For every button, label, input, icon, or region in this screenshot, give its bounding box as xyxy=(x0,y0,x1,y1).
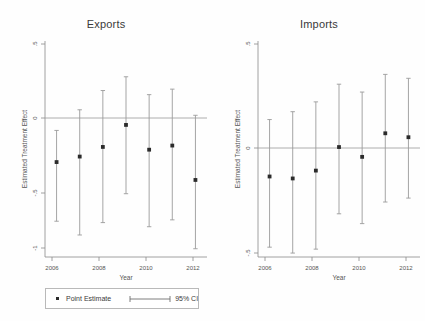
y-axis-title-imports: Estimated Treatment Effect xyxy=(234,110,241,188)
point-estimate-marker xyxy=(360,155,364,159)
x-ticks-imports: 2006 2008 2010 2012 xyxy=(258,257,413,271)
x-tick-label: 2008 xyxy=(92,265,106,271)
x-ticks-exports: 2006 2008 2010 2012 xyxy=(45,257,200,271)
plot-area-exports: .5 0 -.5 -1 Estimated Treatment Effect 2… xyxy=(0,0,212,321)
point-estimate-marker xyxy=(101,145,105,149)
x-axis-title-imports: Year xyxy=(332,274,346,281)
point-estimate-marker xyxy=(194,178,198,182)
point-estimate-marker xyxy=(55,160,59,164)
y-ticks-exports: .5 0 -.5 -1 xyxy=(32,41,45,251)
point-estimate-marker-icon xyxy=(53,297,62,300)
legend-label-ci: 95% CI xyxy=(175,295,198,302)
x-tick-label: 2010 xyxy=(352,265,366,271)
x-axis-title-exports: Year xyxy=(119,274,133,281)
x-tick-label: 2012 xyxy=(186,265,200,271)
point-estimate-marker xyxy=(170,144,174,148)
point-estimate-marker xyxy=(337,145,341,149)
point-estimate-marker xyxy=(124,123,128,127)
point-estimate-marker xyxy=(147,148,151,152)
point-estimate-marker xyxy=(78,155,82,159)
y-ticks-imports: .5 0 -.5 xyxy=(245,41,258,257)
x-tick-label: 2012 xyxy=(399,265,413,271)
point-estimate-marker xyxy=(383,131,387,135)
figure-canvas: Exports .5 0 -.5 -1 Es xyxy=(0,0,425,321)
legend-exports: Point Estimate 95% CI xyxy=(45,288,199,309)
exports-data-series xyxy=(54,77,197,249)
y-tick-label: 0 xyxy=(245,146,251,150)
panel-imports: Imports .5 0 -.5 Estimated Treatment Eff… xyxy=(213,0,425,321)
ci-bar-icon xyxy=(129,295,171,303)
point-estimate-marker xyxy=(268,175,272,179)
x-tick-label: 2008 xyxy=(305,265,319,271)
legend-item-ci: 95% CI xyxy=(111,295,198,303)
x-tick-label: 2006 xyxy=(45,265,59,271)
x-tick-label: 2010 xyxy=(139,265,153,271)
plot-area-imports: .5 0 -.5 Estimated Treatment Effect 2006… xyxy=(213,0,425,321)
x-tick-label: 2006 xyxy=(258,265,272,271)
y-tick-label: .5 xyxy=(245,41,251,47)
imports-svg: .5 0 -.5 Estimated Treatment Effect 2006… xyxy=(213,0,425,321)
y-tick-label: 0 xyxy=(32,116,38,120)
y-tick-label: -1 xyxy=(32,245,38,251)
y-axis-title-exports: Estimated Treatment Effect xyxy=(21,110,28,188)
point-estimate-marker xyxy=(407,135,411,139)
y-tick-label: .5 xyxy=(32,41,38,47)
imports-data-series xyxy=(267,74,410,253)
y-tick-label: -.5 xyxy=(245,249,251,257)
legend-item-point-estimate: Point Estimate xyxy=(46,295,111,302)
legend-label-point-estimate: Point Estimate xyxy=(66,295,111,302)
point-estimate-marker xyxy=(291,177,295,181)
point-estimate-marker xyxy=(314,169,318,173)
y-tick-label: -.5 xyxy=(32,189,38,197)
exports-svg: .5 0 -.5 -1 Estimated Treatment Effect 2… xyxy=(0,0,212,321)
panel-exports: Exports .5 0 -.5 -1 Es xyxy=(0,0,212,321)
